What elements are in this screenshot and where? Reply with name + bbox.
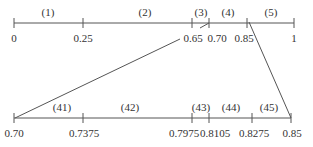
top-tick-label: 0.70 <box>207 32 226 44</box>
bottom-tick-label: 0.70 <box>4 127 23 139</box>
top-tick-label: 0.85 <box>234 32 253 44</box>
bottom-segment-label: (44) <box>222 101 240 113</box>
zoom-connector-left <box>15 39 180 118</box>
top-segment-label: (3) <box>195 6 208 18</box>
top-segment-label: (1) <box>42 6 55 18</box>
top-segment-label: (5) <box>265 6 278 18</box>
bottom-tick-label: 0.7375 <box>69 127 99 139</box>
interval-subdivision-diagram: (1) (2) (3) (4) (5) 0 0.25 0.65 0.70 0.8… <box>0 0 313 147</box>
bottom-segment-label: (43) <box>192 101 210 113</box>
bottom-tick-label: 0.8275 <box>239 127 269 139</box>
bottom-tick-label: 0.8105 <box>200 127 230 139</box>
diagram-lines <box>0 0 313 147</box>
bottom-segment-label: (42) <box>121 101 139 113</box>
top-tick-label: 0.25 <box>73 32 92 44</box>
segment-3-marker <box>200 23 209 28</box>
top-tick-label: 0 <box>11 32 17 44</box>
top-tick-label: 1 <box>291 32 297 44</box>
top-segment-label: (4) <box>222 6 235 18</box>
top-tick-label: 0.65 <box>183 32 202 44</box>
bottom-tick-label: 0.7975 <box>169 127 199 139</box>
bottom-tick-label: 0.85 <box>282 127 301 139</box>
bottom-segment-label: (45) <box>260 101 278 113</box>
bottom-segment-label: (41) <box>53 101 71 113</box>
top-segment-label: (2) <box>139 6 152 18</box>
